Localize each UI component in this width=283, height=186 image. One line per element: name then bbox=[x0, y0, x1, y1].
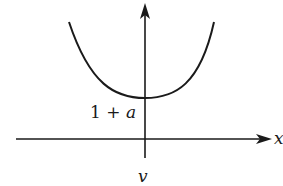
minimum-label-constant: 1 + bbox=[90, 102, 126, 122]
convex-curve bbox=[69, 22, 214, 98]
function-graph-figure: 1 + a x v bbox=[0, 0, 283, 186]
minimum-value-label: 1 + a bbox=[90, 104, 136, 121]
minimum-label-variable: a bbox=[126, 102, 136, 122]
x-axis-label: x bbox=[274, 130, 283, 147]
graph-canvas bbox=[0, 0, 283, 186]
figure-caption: v bbox=[138, 168, 148, 185]
